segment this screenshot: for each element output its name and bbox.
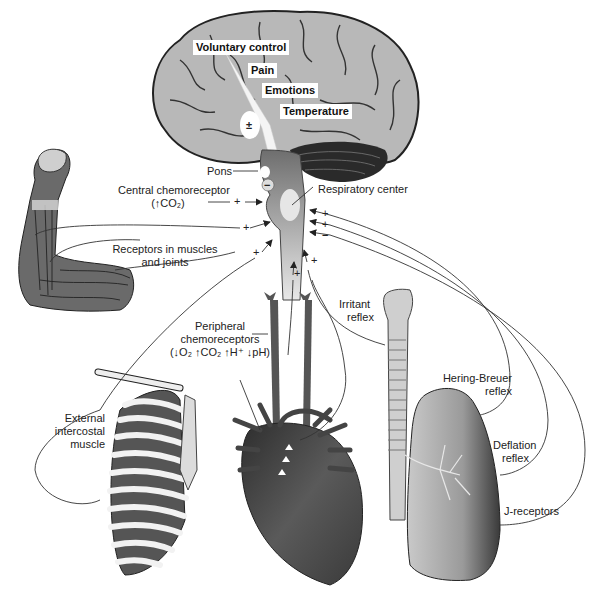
- central-chemoreceptor-sign: +: [234, 196, 240, 207]
- pons-sign: −: [264, 180, 270, 191]
- intercostal-line1: External: [45, 412, 105, 425]
- external-intercostal-label: External intercostal muscle: [45, 412, 105, 451]
- pons-label: Pons: [207, 165, 232, 178]
- respiratory-center-label: Respiratory center: [318, 183, 408, 196]
- hering-breuer-line2: reflex: [420, 385, 512, 398]
- temperature-label: Temperature: [280, 104, 352, 119]
- brain-sign: ±: [246, 120, 252, 131]
- muscle-receptors-line1: Receptors in muscles: [110, 243, 220, 256]
- j-receptors-sign: +: [322, 208, 328, 219]
- irritant-line1: Irritant: [339, 298, 374, 311]
- arm-muscles-illustration: [19, 149, 134, 311]
- deflation-reflex-label: Deflation reflex: [493, 439, 536, 465]
- emotions-label: Emotions: [262, 83, 318, 98]
- pain-label: Pain: [248, 63, 277, 78]
- deflation-line2: reflex: [493, 452, 536, 465]
- muscle-receptors-sign-2: +: [253, 247, 259, 258]
- muscle-receptors-sign-1: +: [243, 222, 249, 233]
- hering-breuer-line1: Hering-Breuer: [420, 372, 512, 385]
- peripheral-line3: (↓O₂ ↑CO₂ ↑H⁺ ↓pH): [160, 346, 280, 359]
- peripheral-sign: +: [294, 268, 300, 279]
- peripheral-chemoreceptors-label: Peripheral chemoreceptors (↓O₂ ↑CO₂ ↑H⁺ …: [160, 320, 280, 359]
- irritant-sign: +: [311, 255, 317, 266]
- hering-breuer-sign: −: [322, 230, 328, 241]
- ribcage-illustration: [98, 372, 197, 575]
- central-chemoreceptor-line1: Central chemoreceptor: [118, 184, 218, 197]
- intercostal-line3: muscle: [45, 438, 105, 451]
- central-chemoreceptor-line2: (↑CO₂): [118, 197, 218, 210]
- intercostal-line2: intercostal: [45, 425, 105, 438]
- hering-breuer-label: Hering-Breuer reflex: [420, 372, 512, 398]
- central-chemoreceptor-label: Central chemoreceptor (↑CO₂): [118, 184, 218, 210]
- voluntary-control-label: Voluntary control: [193, 40, 289, 55]
- peripheral-line2: chemoreceptors: [160, 333, 280, 346]
- irritant-line2: reflex: [339, 311, 374, 324]
- muscle-receptors-line2: and joints: [110, 256, 220, 269]
- deflation-line1: Deflation: [493, 439, 536, 452]
- irritant-reflex-label: Irritant reflex: [339, 298, 374, 324]
- muscle-receptors-label: Receptors in muscles and joints: [110, 243, 220, 269]
- respiratory-control-diagram: Voluntary control Pain Emotions Temperat…: [0, 0, 612, 593]
- deflation-sign: +: [322, 219, 328, 230]
- peripheral-line1: Peripheral: [160, 320, 280, 333]
- j-receptors-label: J-receptors: [504, 505, 559, 518]
- lung-illustration: [405, 388, 500, 580]
